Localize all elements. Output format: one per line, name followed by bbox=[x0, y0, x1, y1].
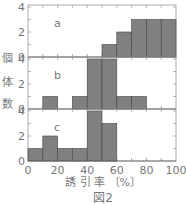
histogram-bar bbox=[72, 97, 87, 110]
x-tick-label: 0 bbox=[25, 164, 32, 177]
panel-label: c bbox=[54, 121, 60, 134]
x-tick-label: 100 bbox=[166, 164, 187, 177]
y-tick-label: 4 bbox=[18, 1, 25, 14]
y-tick-label: 4 bbox=[18, 53, 25, 66]
y-axis-label-char: 数 bbox=[2, 98, 13, 111]
panels-group: 024a024b024c bbox=[18, 1, 176, 168]
panel-b: 024b bbox=[18, 53, 176, 116]
histogram-bar bbox=[117, 97, 132, 110]
histogram-bar bbox=[43, 97, 58, 110]
x-tick-label: 20 bbox=[51, 164, 65, 177]
panel-c: 024c bbox=[18, 105, 176, 168]
histogram-bar bbox=[161, 20, 176, 58]
histogram-bar bbox=[102, 45, 117, 58]
histogram-figure: 024a024b024c 020406080100 個体数 誘 引 率 〔%〕 … bbox=[0, 0, 186, 205]
histogram-bar bbox=[58, 149, 73, 162]
x-tick-label: 80 bbox=[139, 164, 153, 177]
y-axis-label-char: 体 bbox=[2, 75, 13, 89]
histogram-bar bbox=[87, 111, 102, 161]
y-tick-label: 2 bbox=[18, 78, 25, 91]
panel-a: 024a bbox=[18, 1, 176, 64]
histogram-bar bbox=[87, 59, 102, 109]
panel-label: a bbox=[54, 17, 61, 30]
y-axis-label: 個体数 bbox=[2, 52, 13, 111]
y-tick-label: 4 bbox=[18, 105, 25, 118]
histogram-bar bbox=[43, 136, 58, 161]
histogram-bar bbox=[102, 59, 117, 109]
figure-caption: 図2 bbox=[93, 191, 113, 205]
x-axis-label: 誘 引 率 〔%〕 bbox=[65, 175, 141, 189]
histogram-bar bbox=[102, 124, 117, 162]
histogram-bar bbox=[132, 97, 147, 110]
histogram-bar bbox=[117, 32, 132, 57]
histogram-bar bbox=[72, 149, 87, 162]
histogram-bar bbox=[28, 149, 43, 162]
panel-label: b bbox=[54, 69, 61, 82]
y-axis-label-char: 個 bbox=[2, 52, 13, 65]
histogram-bar bbox=[132, 20, 147, 58]
histogram-bar bbox=[146, 20, 161, 58]
y-tick-label: 2 bbox=[18, 130, 25, 143]
y-tick-label: 2 bbox=[18, 26, 25, 39]
